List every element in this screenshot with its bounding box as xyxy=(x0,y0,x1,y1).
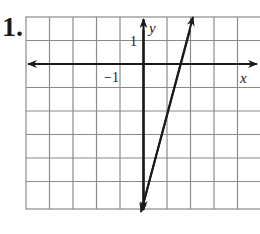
tick-label-y-1: 1 xyxy=(130,34,137,49)
tick-label-x-minus-1: −1 xyxy=(104,70,119,85)
coordinate-graph: y x 1 −1 xyxy=(0,0,260,234)
plotted-line-lower xyxy=(141,30,190,212)
y-axis-label: y xyxy=(147,20,156,36)
x-axis-label: x xyxy=(239,70,247,86)
